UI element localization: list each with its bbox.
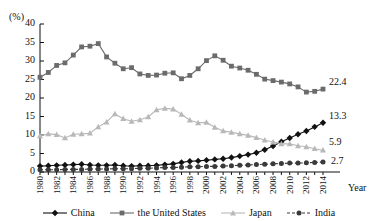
- chart-legend: Chinathe United StatesJapanIndia: [0, 207, 377, 218]
- x-tick-label: 1988: [102, 176, 112, 194]
- x-tick-label: 2004: [235, 176, 245, 194]
- x-tick-label: 1992: [135, 176, 145, 194]
- legend-label: India: [315, 207, 336, 218]
- y-tick-label: 20: [13, 91, 35, 102]
- end-label-the-united-states: 22.4: [329, 76, 347, 87]
- legend-label: Japan: [249, 207, 272, 218]
- line-chart: (%) 0510152025303540 1980198219841986198…: [0, 0, 377, 221]
- x-tick-label: 1986: [85, 176, 95, 194]
- diamond-marker-icon: [42, 208, 68, 218]
- legend-item-india[interactable]: India: [286, 207, 336, 218]
- x-axis-title: Year: [348, 182, 366, 193]
- x-tick-label: 2000: [201, 176, 211, 194]
- y-tick-label: 30: [13, 54, 35, 65]
- end-label-japan: 5.9: [329, 136, 342, 147]
- end-label-china: 13.3: [329, 110, 347, 121]
- y-tick-label: 0: [13, 165, 35, 176]
- series-the-united-states: [38, 41, 326, 94]
- x-tick-label: 2014: [318, 176, 328, 194]
- triangle-marker-icon: [220, 208, 246, 218]
- square-marker-icon: [109, 208, 135, 218]
- y-tick-label: 40: [13, 17, 35, 28]
- x-tick-label: 2002: [218, 176, 228, 194]
- legend-item-china[interactable]: China: [42, 207, 95, 218]
- y-tick-label: 10: [13, 128, 35, 139]
- y-tick-label: 35: [13, 36, 35, 47]
- x-tick-label: 1980: [35, 176, 45, 194]
- x-tick-label: 2008: [268, 176, 278, 194]
- legend-label: the United States: [138, 207, 206, 218]
- circle-marker-icon: [286, 208, 312, 218]
- legend-label: China: [71, 207, 95, 218]
- end-label-india: 2.7: [331, 155, 344, 166]
- y-tick-label: 15: [13, 110, 35, 121]
- x-tick-label: 1994: [152, 176, 162, 194]
- x-tick-label: 2006: [251, 176, 261, 194]
- y-tick-label: 5: [13, 147, 35, 158]
- x-tick-label: 1982: [52, 176, 62, 194]
- x-tick-label: 2010: [285, 176, 295, 194]
- x-tick-label: 1996: [168, 176, 178, 194]
- x-tick-label: 2012: [301, 176, 311, 194]
- legend-item-japan[interactable]: Japan: [220, 207, 272, 218]
- series-japan: [37, 105, 326, 152]
- legend-item-the-united-states[interactable]: the United States: [109, 207, 206, 218]
- x-tick-label: 1984: [68, 176, 78, 194]
- y-tick-label: 25: [13, 73, 35, 84]
- x-tick-label: 1990: [118, 176, 128, 194]
- x-tick-label: 1998: [185, 176, 195, 194]
